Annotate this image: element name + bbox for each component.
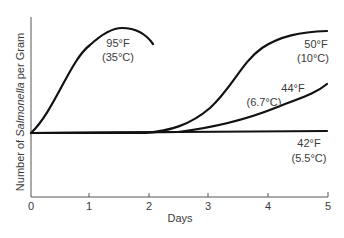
x-ticks [89, 192, 328, 197]
y-axis-label-suffix: per Gram [14, 33, 26, 83]
x-tick-label-4: 4 [265, 200, 271, 212]
x-tick-label-0: 0 [28, 200, 34, 212]
x-tick-label-2: 2 [146, 200, 152, 212]
label-5-5c: (5.5°C) [292, 152, 327, 164]
y-axis-label-prefix: Number of [14, 137, 26, 191]
label-35c: (35°C) [102, 51, 134, 63]
x-tick-label-5: 5 [325, 200, 331, 212]
label-10c: (10°C) [297, 52, 329, 64]
label-50f: 50°F [304, 38, 328, 50]
label-42f: 42°F [297, 137, 321, 149]
label-44f: 44°F [281, 82, 305, 94]
salmonella-growth-chart: 0 1 2 3 4 5 Days Number of Salmonella pe… [0, 0, 344, 238]
x-axis-label: Days [167, 212, 193, 224]
x-tick-label-1: 1 [86, 200, 92, 212]
label-6-7c: (6.7°C) [247, 96, 282, 108]
label-95f: 95°F [106, 37, 130, 49]
curve-95f [31, 28, 153, 133]
y-axis-label-italic: Salmonella [14, 82, 26, 136]
x-tick-label-3: 3 [205, 200, 211, 212]
y-axis-label: Number of Salmonella per Gram [14, 33, 26, 191]
